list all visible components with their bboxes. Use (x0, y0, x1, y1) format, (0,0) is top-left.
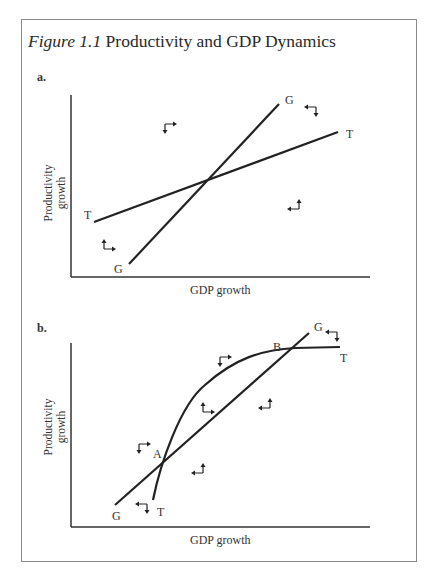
panel-a-G-start-label: G (114, 262, 123, 276)
intersection-A-label: A (153, 447, 162, 461)
panel-b-curve-T (153, 347, 340, 500)
panel-b-G-end-label: G (314, 320, 323, 334)
direction-arrow-icon (137, 442, 152, 455)
direction-arrow-icon (191, 463, 206, 476)
direction-arrow-icon (325, 330, 340, 343)
panel-a: T T G G (71, 93, 370, 277)
panel-a-curve-T (94, 132, 338, 222)
direction-arrow-icon (201, 402, 216, 415)
direction-arrow-icon (304, 105, 319, 118)
direction-arrow-icon (163, 122, 178, 135)
panel-a-T-start-label: T (84, 208, 92, 222)
direction-arrow-icon (102, 239, 117, 252)
direction-arrow-icon (287, 199, 302, 212)
panel-b-curve-G (115, 333, 309, 505)
panel-a-G-end-label: G (285, 93, 294, 107)
panel-b-T-start-label: T (157, 505, 165, 519)
direction-arrow-icon (218, 355, 233, 368)
panel-a-T-end-label: T (346, 127, 354, 141)
direction-arrow-icon (135, 502, 150, 515)
panel-b: G G T T A B (71, 320, 370, 527)
intersection-B-label: B (273, 340, 281, 354)
panel-a-curve-G (129, 104, 279, 264)
direction-arrow-icon (258, 398, 273, 411)
panel-b-G-start-label: G (112, 509, 121, 523)
panel-b-T-end-label: T (340, 351, 348, 365)
diagram-canvas: T T G G G G T T A B (0, 0, 441, 578)
